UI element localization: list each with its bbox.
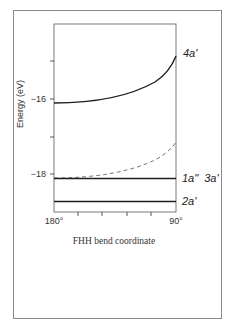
label-1a-3a: 1a" 3a' — [182, 172, 219, 184]
curve-dashed — [54, 142, 176, 178]
y-tick-label-16: −16 — [31, 94, 46, 104]
energy-diagram: −16 −18 Energy (eV) 180° 90° FHH bend co… — [0, 0, 237, 328]
label-2a-prime: 2a' — [181, 195, 197, 207]
x-tick-label-90: 90° — [169, 216, 183, 226]
curve-4a-prime — [54, 56, 176, 103]
x-axis-label: FHH bend coordinate — [73, 236, 155, 246]
y-tick-label-18: −18 — [31, 169, 46, 179]
plot-area — [54, 24, 176, 212]
x-ticks — [78, 212, 151, 216]
label-4a-prime: 4a' — [183, 47, 198, 59]
y-axis-label: Energy (eV) — [15, 80, 25, 128]
x-tick-label-180: 180° — [45, 216, 64, 226]
y-ticks — [50, 61, 54, 174]
